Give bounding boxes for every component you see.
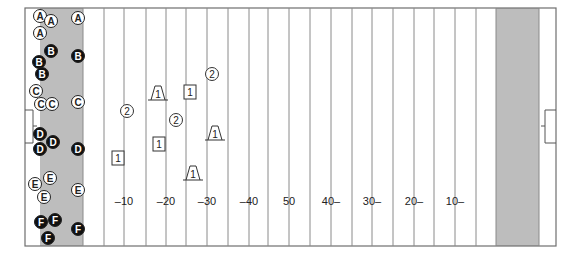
player-label: F [38,217,44,228]
player-c[interactable]: C [72,96,85,109]
player-label: F [52,215,58,226]
player-label: E [47,173,54,184]
player-c[interactable]: C [30,85,43,98]
circle-marker[interactable]: 2 [121,105,134,118]
left-endzone-shade [40,8,83,246]
football-field-diagram: –10 –20 –30 –40 50 40– 30– 20– 10– 22211… [0,0,576,260]
marker-label: 1 [212,129,218,140]
player-f[interactable]: F [35,216,48,229]
player-b[interactable]: B [33,56,46,69]
player-b[interactable]: B [36,68,49,81]
player-e[interactable]: E [72,184,85,197]
yard-number: 40– [322,195,341,207]
cone-marker[interactable]: 1 [205,126,225,140]
yard-number: –40 [240,195,258,207]
player-label: A [36,28,43,39]
player-e[interactable]: E [44,172,57,185]
player-b[interactable]: B [72,50,85,63]
player-label: E [32,179,39,190]
player-label: B [47,46,54,57]
yard-number: –20 [157,195,175,207]
player-label: F [75,224,81,235]
player-label: F [45,233,51,244]
player-e[interactable]: E [38,191,51,204]
player-label: E [41,192,48,203]
circle-marker[interactable]: 2 [170,114,183,127]
drill-markers: 222111111 [112,68,225,181]
player-label: B [38,69,45,80]
player-label: B [35,57,42,68]
marker-label: 1 [187,87,193,98]
yard-numbers: –10 –20 –30 –40 50 40– 30– 20– 10– [115,195,465,207]
marker-label: 2 [173,115,179,126]
player-label: A [47,16,54,27]
player-label: A [36,11,43,22]
player-label: C [48,99,55,110]
yard-lines [83,8,539,246]
marker-label: 1 [190,169,196,180]
player-d[interactable]: D [34,143,47,156]
yard-number: 10– [446,195,465,207]
player-a[interactable]: A [34,27,47,40]
marker-label: 2 [124,106,130,117]
player-f[interactable]: F [42,232,55,245]
player-label: D [74,144,81,155]
yard-number: –10 [115,195,133,207]
player-c[interactable]: C [46,98,59,111]
yard-number: 50 [283,195,295,207]
yard-number: –30 [198,195,216,207]
player-label: C [37,99,44,110]
marker-label: 2 [209,69,215,80]
player-label: A [74,13,81,24]
player-d[interactable]: D [72,143,85,156]
player-b[interactable]: B [45,45,58,58]
player-label: C [74,97,81,108]
player-f[interactable]: F [49,214,62,227]
player-label: E [75,185,82,196]
player-e[interactable]: E [29,178,42,191]
circle-marker[interactable]: 2 [206,68,219,81]
player-label: B [74,51,81,62]
cone-marker[interactable]: 1 [148,86,168,100]
player-f[interactable]: F [72,223,85,236]
square-marker[interactable]: 1 [184,85,196,99]
marker-label: 1 [155,89,161,100]
square-marker[interactable]: 1 [112,151,124,165]
marker-label: 1 [115,153,121,164]
player-label: C [32,86,39,97]
yard-number: 30– [363,195,382,207]
player-a[interactable]: A [45,15,58,28]
yard-number: 20– [405,195,424,207]
right-goal-post-icon [541,110,556,143]
player-d[interactable]: D [47,136,60,149]
player-label: D [36,129,43,140]
player-d[interactable]: D [34,128,47,141]
square-marker[interactable]: 1 [153,137,165,151]
player-label: D [49,137,56,148]
player-a[interactable]: A [72,12,85,25]
player-label: D [36,144,43,155]
right-endzone-shade [496,8,539,246]
marker-label: 1 [156,139,162,150]
